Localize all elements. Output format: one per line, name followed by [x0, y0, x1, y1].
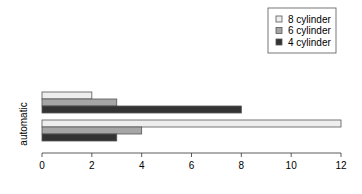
- legend-swatch-6-cylinder: [276, 28, 282, 34]
- x-axis: 024681012: [39, 153, 347, 171]
- bar-4-cylinder-group-1: [42, 106, 241, 113]
- legend-swatch-4-cylinder: [276, 39, 282, 45]
- legend-label-4-cylinder: 4 cylinder: [288, 37, 331, 48]
- legend-label-8-cylinder: 8 cylinder: [288, 14, 331, 25]
- x-tick-label: 12: [335, 160, 347, 171]
- x-tick-label: 10: [286, 160, 298, 171]
- legend: 8 cylinder6 cylinder4 cylinder: [268, 8, 336, 53]
- bars: [42, 92, 341, 141]
- bar-8-cylinder-group-1: [42, 92, 92, 99]
- bar-6-cylinder-group-2: [42, 127, 142, 134]
- bar-4-cylinder-group-2: [42, 134, 117, 141]
- x-tick-label: 8: [239, 160, 245, 171]
- x-tick-label: 6: [189, 160, 195, 171]
- bar-chart: 024681012 automatic 8 cylinder6 cylinder…: [0, 0, 362, 194]
- x-tick-label: 2: [89, 160, 95, 171]
- x-tick-label: 0: [39, 160, 45, 171]
- y-axis-label: automatic: [18, 102, 29, 145]
- legend-label-6-cylinder: 6 cylinder: [288, 25, 331, 36]
- bar-6-cylinder-group-1: [42, 99, 117, 106]
- legend-swatch-8-cylinder: [276, 16, 282, 22]
- x-tick-label: 4: [139, 160, 145, 171]
- bar-8-cylinder-group-2: [42, 120, 341, 127]
